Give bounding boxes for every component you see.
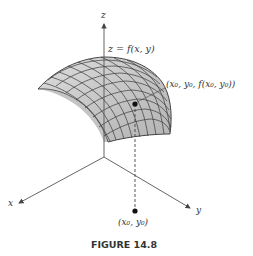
base-point-label: (x₀, y₀) — [118, 217, 149, 227]
base-point — [132, 208, 137, 213]
figure-caption: FIGURE 14.8 — [91, 239, 157, 250]
x-axis-label: x — [8, 198, 13, 208]
x-axis — [19, 157, 104, 203]
y-axis-label: y — [195, 205, 202, 215]
surface — [38, 57, 171, 142]
surface-point — [132, 101, 137, 106]
surface-diagram: z x y z = f(x, y) (x₀, y₀, f(x₀, y₀)) (x… — [0, 0, 253, 256]
z-axis-label: z — [100, 10, 106, 20]
y-axis — [104, 157, 190, 208]
surface-point-label: (x₀, y₀, f(x₀, y₀)) — [166, 79, 236, 89]
surface-label: z = f(x, y) — [107, 43, 155, 54]
